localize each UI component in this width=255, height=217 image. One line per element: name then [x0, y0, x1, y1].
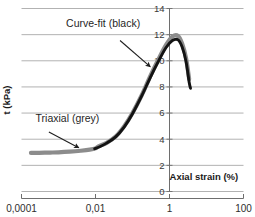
chart-background: [0, 0, 255, 217]
y-axis-title: t (kPa): [1, 85, 12, 114]
y-tick-label-3: 6: [159, 107, 164, 118]
annotation-label-triaxial: Triaxial (grey): [36, 112, 100, 124]
x-tick-label-0: 0,0001: [6, 203, 37, 214]
x-tick-label-1: 0,01: [86, 203, 106, 214]
x-tick-label-3: 100: [235, 203, 252, 214]
y-tick-label-7: 14: [154, 3, 165, 14]
chart-canvas: 02468101214 0,00010,011100 Curve-fit (bl…: [0, 0, 255, 217]
y-tick-label-2: 4: [159, 134, 164, 145]
chart-figure: 02468101214 0,00010,011100 Curve-fit (bl…: [0, 0, 255, 217]
y-tick-label-6: 12: [154, 29, 165, 40]
y-tick-label-1: 2: [159, 160, 164, 171]
annotation-label-curve-fit: Curve-fit (black): [66, 17, 140, 29]
x-tick-label-2: 1: [167, 203, 173, 214]
x-axis-title: Axial strain (%): [170, 171, 239, 182]
y-tick-label-4: 8: [159, 81, 164, 92]
y-tick-label-0: 0: [159, 186, 164, 197]
